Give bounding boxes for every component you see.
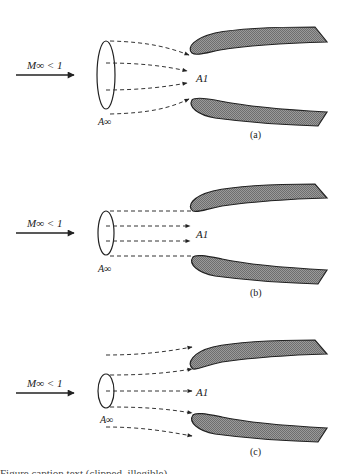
upper-inlet-lip [190, 340, 327, 369]
capture-area-ellipse [97, 41, 115, 109]
upper-inlet-lip [190, 27, 327, 54]
freestream-mach-label: M∞ < 1 [26, 59, 62, 71]
lower-inlet-lip [192, 414, 327, 442]
inlet-area-label: A1 [195, 386, 208, 398]
streamline [110, 99, 189, 114]
capture-area-label: A∞ [99, 414, 113, 425]
streamline [110, 41, 189, 55]
lower-inlet-lip [192, 256, 327, 284]
panel-b: M∞ < 1 A∞ A1 (b) [16, 184, 327, 299]
panel-a: M∞ < 1 A∞ A1 (a) [16, 27, 327, 141]
freestream-mach-label: M∞ < 1 [26, 377, 62, 389]
streamline [106, 83, 187, 90]
panel-caption: (c) [250, 446, 261, 458]
capture-area-ellipse [98, 211, 114, 255]
streamline [110, 407, 192, 413]
inlet-area-label: A1 [195, 228, 208, 240]
panel-c: M∞ < 1 A∞ A1 (c) [16, 340, 327, 458]
streamline [106, 63, 187, 71]
streamline [106, 427, 192, 436]
freestream-arrow: M∞ < 1 [16, 59, 74, 75]
lower-inlet-lip [191, 98, 327, 126]
streamline [106, 347, 192, 355]
freestream-mach-label: M∞ < 1 [26, 217, 62, 229]
panel-caption: (a) [250, 129, 261, 141]
freestream-arrow: M∞ < 1 [16, 217, 74, 233]
upper-inlet-lip [190, 184, 327, 212]
capture-area-label: A∞ [97, 116, 111, 127]
capture-area-label: A∞ [97, 263, 111, 274]
inlet-area-label: A1 [195, 72, 208, 84]
streamline [110, 369, 192, 375]
clipped-figure-caption: Figure caption text (clipped, illegible) [0, 466, 345, 474]
freestream-arrow: M∞ < 1 [16, 377, 74, 393]
inlet-flow-diagram: M∞ < 1 A∞ A1 (a) M∞ < 1 A∞ A1 (b) [0, 0, 345, 474]
panel-caption: (b) [250, 287, 262, 299]
